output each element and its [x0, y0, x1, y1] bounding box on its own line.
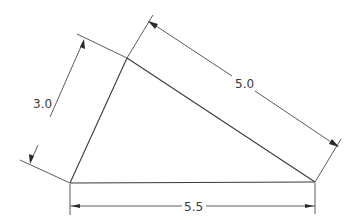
dimension-line [150, 22, 232, 76]
triangle [70, 58, 315, 183]
arrowhead-icon [148, 21, 158, 29]
dimension-line [50, 42, 83, 117]
dimension-line [255, 91, 337, 146]
dimension-label: 3.0 [33, 97, 52, 111]
triangle-side-ac [70, 182, 315, 183]
dimension-label: 5.5 [184, 200, 203, 214]
triangle-dimension-diagram: 3.0 5.0 5.5 [0, 0, 359, 221]
dimension-side-ab: 3.0 [20, 34, 127, 183]
triangle-side-ab [70, 58, 127, 183]
arrowhead-icon [329, 139, 339, 147]
extension-line [20, 160, 70, 183]
triangle-side-bc [127, 58, 315, 182]
dimension-label: 5.0 [235, 77, 254, 91]
dimension-side-ac: 5.5 [70, 183, 315, 215]
dimension-side-bc: 5.0 [127, 15, 341, 182]
arrowhead-icon [305, 204, 314, 208]
arrowhead-icon [71, 204, 80, 208]
